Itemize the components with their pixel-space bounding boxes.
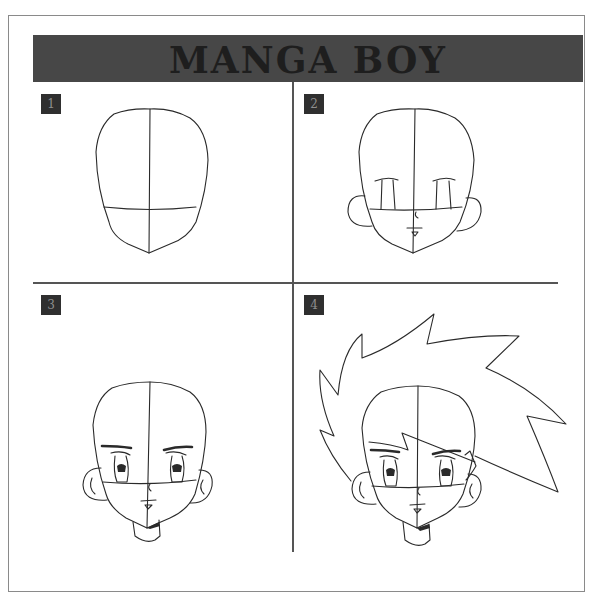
right-eyebrow (433, 451, 460, 454)
nose (418, 488, 420, 495)
left-eyebrow (371, 450, 399, 452)
panel-4-drawing (320, 314, 566, 545)
right-ear-detail (470, 484, 473, 498)
right-iris (172, 464, 182, 472)
right-eye-top (166, 452, 186, 455)
right-eye (436, 181, 451, 209)
left-ear (352, 472, 376, 504)
right-iris (441, 468, 451, 476)
nose (149, 484, 151, 491)
panel-1-drawing (96, 109, 208, 253)
left-eye (381, 180, 395, 209)
center-line (417, 386, 418, 528)
right-eye-top (435, 456, 455, 459)
mouth (141, 500, 156, 509)
eye-guideline (370, 207, 462, 210)
panel-3-drawing (83, 382, 212, 541)
neck-shadow (147, 522, 160, 529)
left-ear-detail (360, 482, 364, 498)
panel-2-drawing (348, 109, 481, 253)
mouth (407, 228, 422, 236)
head-outline (96, 109, 208, 253)
center-line (147, 382, 150, 528)
left-eye-top (380, 456, 398, 459)
center-line (413, 109, 415, 253)
center-line (149, 109, 150, 253)
left-iris (117, 464, 126, 472)
eye-guideline (104, 207, 196, 210)
left-iris (386, 468, 395, 476)
left-eye-top (111, 452, 130, 455)
hair (320, 314, 566, 492)
drawing-canvas (0, 0, 604, 603)
left-ear-detail (91, 478, 95, 494)
left-eyebrow (102, 446, 131, 448)
left-eye-top (375, 178, 398, 181)
right-ear-detail (201, 480, 204, 494)
right-eyebrow (164, 447, 192, 450)
hair-fringe (369, 433, 475, 462)
nose (415, 212, 418, 218)
head-outline (362, 386, 475, 528)
right-eye-top (433, 178, 455, 181)
right-ear (457, 198, 481, 231)
